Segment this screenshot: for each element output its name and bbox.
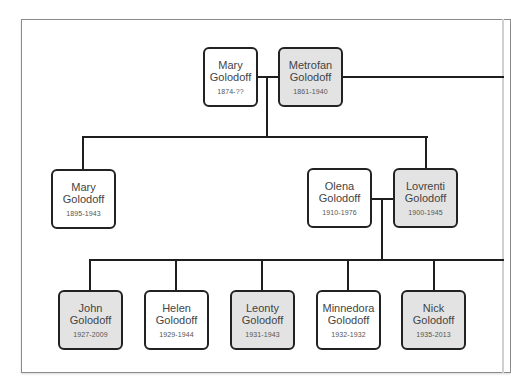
- drop-line-john: [89, 259, 91, 290]
- descent-line-gen2: [381, 199, 383, 261]
- drop-line-helen: [175, 259, 177, 290]
- person-card-metrofan[interactable]: Metrofan Golodoff 1861-1940: [278, 47, 343, 107]
- person-last-name: Golodoff: [328, 314, 369, 326]
- drop-line-lovrenti: [425, 136, 427, 168]
- person-last-name: Golodoff: [290, 71, 331, 83]
- person-dates: 1910-1976: [322, 209, 356, 217]
- drop-line-mary: [82, 136, 84, 169]
- person-last-name: Golodoff: [405, 192, 446, 204]
- person-first-name: Nick: [423, 302, 444, 314]
- person-first-name: Minnedora: [323, 302, 375, 314]
- person-card-lovrenti[interactable]: Lovrenti Golodoff 1900-1945: [393, 168, 458, 228]
- spouse-connector-offscreen: [343, 76, 504, 78]
- person-dates: 1932-1932: [331, 331, 365, 339]
- person-first-name: Mary: [218, 59, 242, 71]
- canvas-scroll-edge: [502, 19, 504, 373]
- person-dates: 1861-1940: [293, 88, 327, 96]
- sibling-bar-gen2: [82, 136, 428, 138]
- person-dates: 1931-1943: [245, 331, 279, 339]
- person-first-name: Metrofan: [289, 59, 332, 71]
- drop-line-leonty: [261, 259, 263, 290]
- person-last-name: Golodoff: [63, 193, 104, 205]
- person-card-nick[interactable]: Nick Golodoff 1935-2013: [401, 290, 466, 350]
- person-first-name: Olena: [325, 180, 354, 192]
- person-dates: 1927-2009: [73, 331, 107, 339]
- person-last-name: Golodoff: [210, 71, 251, 83]
- person-card-mary-1874[interactable]: Mary Golodoff 1874-??: [203, 47, 258, 107]
- person-first-name: Helen: [162, 302, 191, 314]
- person-first-name: Lovrenti: [406, 180, 445, 192]
- person-dates: 1935-2013: [416, 331, 450, 339]
- descent-line-gen1: [266, 77, 268, 138]
- drop-line-nick: [433, 259, 435, 290]
- person-card-mary-1895[interactable]: Mary Golodoff 1895-1943: [51, 169, 116, 229]
- person-card-minnedora[interactable]: Minnedora Golodoff 1932-1932: [316, 290, 381, 350]
- person-last-name: Golodoff: [319, 192, 360, 204]
- person-dates: 1874-??: [217, 88, 243, 96]
- person-dates: 1900-1945: [408, 209, 442, 217]
- sibling-bar-gen3: [89, 259, 504, 261]
- drop-line-minnedora: [347, 259, 349, 290]
- person-first-name: Leonty: [246, 302, 279, 314]
- person-first-name: John: [79, 302, 103, 314]
- person-first-name: Mary: [71, 181, 95, 193]
- person-dates: 1929-1944: [159, 331, 193, 339]
- person-last-name: Golodoff: [413, 314, 454, 326]
- person-card-leonty[interactable]: Leonty Golodoff 1931-1943: [230, 290, 295, 350]
- person-card-helen[interactable]: Helen Golodoff 1929-1944: [144, 290, 209, 350]
- person-last-name: Golodoff: [242, 314, 283, 326]
- person-last-name: Golodoff: [156, 314, 197, 326]
- person-last-name: Golodoff: [70, 314, 111, 326]
- person-dates: 1895-1943: [66, 210, 100, 218]
- person-card-john[interactable]: John Golodoff 1927-2009: [58, 290, 123, 350]
- person-card-olena[interactable]: Olena Golodoff 1910-1976: [307, 168, 372, 228]
